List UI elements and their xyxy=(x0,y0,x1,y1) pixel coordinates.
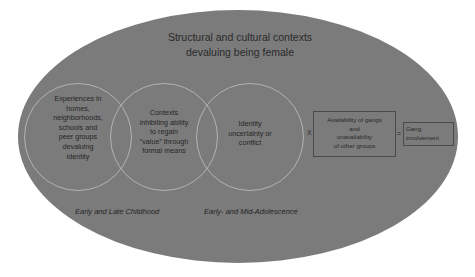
text-line: Gang xyxy=(406,125,453,134)
label-adolescence: Early- and Mid-Adolescence xyxy=(204,207,298,216)
availability-box: Availability of gangs and unavailability… xyxy=(313,111,396,157)
text-line: Availability of gangs xyxy=(314,116,395,125)
diagram-title: Structural and cultural contexts devalui… xyxy=(100,30,380,60)
text-line: involvement xyxy=(406,134,453,143)
text-line: conflict xyxy=(200,138,300,148)
title-line-2: devaluing being female xyxy=(100,45,380,60)
multiply-operator: X xyxy=(307,129,312,136)
text-line: of other groups xyxy=(314,142,395,151)
text-line: and xyxy=(314,125,395,134)
text-line: Identity xyxy=(200,119,300,129)
gang-involvement-box: Gang involvement xyxy=(403,122,454,146)
title-line-1: Structural and cultural contexts xyxy=(100,30,380,45)
equals-operator: = xyxy=(397,130,401,137)
text-line: homes, xyxy=(28,104,128,114)
diagram-canvas: Structural and cultural contexts devalui… xyxy=(0,0,475,277)
text-line: uncertainty or xyxy=(200,129,300,139)
label-childhood: Early and Late Childhood xyxy=(75,207,159,216)
circle-identity-text: Identity uncertainty or conflict xyxy=(200,119,300,148)
text-line: unavailability xyxy=(314,133,395,142)
text-line: Experiences in xyxy=(28,94,128,104)
